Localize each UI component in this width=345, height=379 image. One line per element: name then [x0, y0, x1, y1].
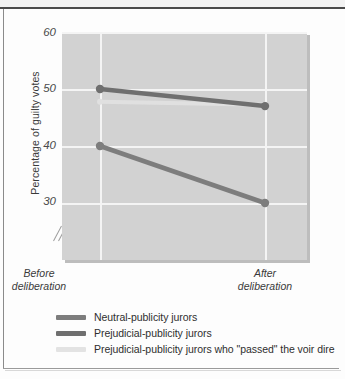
scanned-figure-page: Percentage of guilty votes 60 50 40 30 B… [0, 0, 345, 379]
legend-label-neutral-publicity: Neutral-publicity jurors [94, 311, 197, 323]
legend-label-prejudicial-publicity: Prejudicial-publicity jurors [94, 327, 212, 339]
x-tick-before-line1: Before [0, 267, 99, 280]
y-axis-label: Percentage of guilty votes [29, 48, 41, 218]
x-tick-label-before: Before deliberation [0, 267, 99, 293]
chart-legend: Neutral-publicity jurors Prejudicial-pub… [56, 309, 341, 357]
legend-swatch-prejudicial-passed-voir-dire [56, 347, 86, 352]
legend-swatch-neutral-publicity [56, 315, 86, 320]
series-marker [96, 142, 104, 150]
x-tick-after-line2: deliberation [205, 280, 325, 293]
page-frame-bottom-shadow [5, 370, 341, 371]
legend-item-neutral-publicity: Neutral-publicity jurors [56, 309, 341, 325]
legend-item-prejudicial-publicity: Prejudicial-publicity jurors [56, 325, 341, 341]
y-tick-label-60: 60 [30, 26, 56, 38]
x-tick-label-after: After deliberation [205, 267, 325, 293]
page-top-band [0, 0, 345, 7]
legend-swatch-prejudicial-publicity [56, 331, 86, 336]
page-frame-bottom [3, 368, 339, 369]
x-tick-after-line1: After [205, 267, 325, 280]
series-marker [261, 102, 269, 110]
legend-label-prejudicial-passed-voir-dire: Prejudicial-publicity jurors who "passed… [94, 343, 334, 355]
y-tick-label-30: 30 [30, 195, 56, 207]
series-marker [261, 199, 269, 207]
data-series-layer [62, 32, 307, 260]
series-marker [97, 99, 103, 105]
legend-item-prejudicial-passed-voir-dire: Prejudicial-publicity jurors who "passed… [56, 341, 341, 357]
line-chart-figure: Percentage of guilty votes 60 50 40 30 B… [0, 9, 345, 367]
x-tick-before-line2: deliberation [0, 280, 99, 293]
y-tick-label-50: 50 [30, 82, 56, 94]
series-marker [96, 85, 104, 93]
series-line [100, 146, 265, 203]
y-tick-label-40: 40 [30, 139, 56, 151]
